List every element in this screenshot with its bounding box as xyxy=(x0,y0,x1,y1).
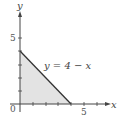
x-tick-label-5: 5 xyxy=(81,107,87,117)
y-tick-label-5: 5 xyxy=(10,33,16,43)
origin-label: 0 xyxy=(10,104,16,114)
x-axis-label: x xyxy=(111,99,117,110)
plot: y x 0 5 5 y = 4 − x xyxy=(0,0,119,118)
y-axis-label: y xyxy=(16,0,23,11)
y-axis-arrow-icon xyxy=(18,11,22,17)
curve-label: y = 4 − x xyxy=(43,60,91,71)
